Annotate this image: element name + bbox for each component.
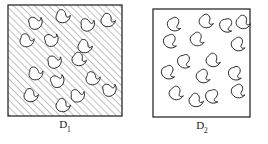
d1-label-subscript: 1 (67, 125, 71, 134)
panel-d2 (153, 9, 252, 117)
panel-d1 (8, 5, 122, 116)
d1-label: D1 (35, 119, 95, 133)
d2-label-subscript: 2 (204, 126, 208, 135)
d2-label: D2 (172, 120, 232, 134)
d1-label-main: D (59, 118, 67, 130)
d2-label-main: D (196, 119, 204, 131)
figure-canvas: D1 D2 (0, 0, 268, 144)
